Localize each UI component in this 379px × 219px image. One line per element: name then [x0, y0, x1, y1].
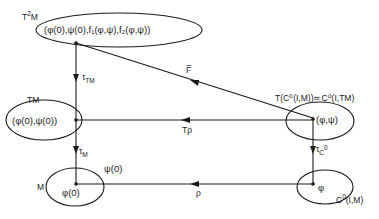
tau-c0-label: τC0	[316, 144, 328, 156]
tau-tm-arrowhead	[73, 74, 79, 82]
diagram-canvas: T2M (φ(0),ψ(0),f₁(φ,ψ),f₂(φ,ψ)) TM (φ(0)…	[0, 0, 379, 219]
rho-label: ρ	[196, 188, 201, 198]
tc-content: (φ,ψ)	[316, 114, 338, 125]
t2m-space-label: T2M	[22, 10, 38, 22]
commutative-diagram: T2M (φ(0),ψ(0),f₁(φ,ψ),f₂(φ,ψ)) TM (φ(0)…	[0, 0, 379, 219]
rho-arrowhead	[190, 181, 199, 187]
t-rho-label: Tρ	[182, 125, 192, 135]
tc-space-label: T(C⁰(I,M))≃C⁰(I,TM)	[275, 93, 354, 103]
fbar-arrowhead	[190, 80, 199, 86]
tau-tm-label: τTM	[82, 72, 95, 84]
t-rho-arrowhead	[181, 117, 190, 123]
t2m-point	[74, 41, 78, 45]
c-point	[311, 182, 315, 186]
tau-m-label: τM	[79, 146, 88, 158]
tm-point	[74, 118, 78, 122]
fbar-label: F̅	[186, 65, 192, 75]
tm-content: (φ(0),ψ(0))	[12, 115, 57, 126]
m-content: φ(0)	[62, 187, 80, 198]
t2m-content: (φ(0),ψ(0),f₁(φ,ψ),f₂(φ,ψ))	[44, 24, 150, 35]
c-content: φ	[318, 182, 324, 193]
c-space-label: C0(I,M)	[336, 193, 363, 205]
m-annotation: ψ(0)	[104, 163, 122, 174]
tm-space-label: TM	[27, 95, 39, 105]
m-point	[74, 182, 78, 186]
m-space-label: M	[37, 182, 44, 192]
tc-point	[311, 117, 315, 121]
